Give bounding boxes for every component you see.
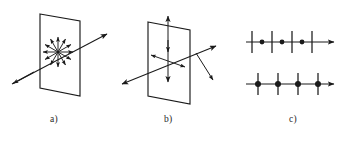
figure-canvas (0, 0, 352, 151)
panel-label-b: b) (164, 114, 172, 124)
panel-label-c: c) (289, 114, 297, 124)
panel-a-unpolarized (12, 14, 107, 96)
emerging-ray-b (196, 53, 213, 80)
panel-c-symbols (246, 31, 334, 95)
panel-label-a: a) (50, 114, 58, 124)
lower-axis-group-c (246, 73, 334, 95)
panel-b-partially-polarized (122, 16, 216, 104)
light-ray-a-incoming-head (13, 72, 34, 84)
figure-root: a) b) c) (0, 0, 352, 151)
light-ray-b (122, 46, 216, 84)
plane-b (148, 22, 190, 104)
upper-axis-group-c (246, 31, 334, 53)
starburst-a (43, 37, 73, 67)
